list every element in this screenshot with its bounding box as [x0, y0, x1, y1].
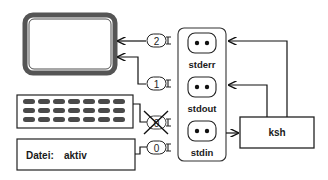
plug-2: 2 — [147, 34, 171, 47]
plug-prong-icon — [166, 37, 171, 44]
redirection-diagram: Datei: aktiv 2 1 0 0 — [0, 0, 328, 180]
file-value: aktiv — [64, 150, 87, 161]
wire-keyboard — [133, 104, 147, 122]
plug-prong-icon — [166, 119, 171, 126]
process-label: ksh — [268, 127, 285, 138]
svg-text:2: 2 — [154, 36, 160, 47]
svg-text:1: 1 — [154, 79, 160, 90]
socket-label-stdin: stdin — [191, 147, 214, 158]
keyboard-icon — [17, 95, 133, 128]
plug-keyboard-crossed: 0 — [144, 111, 171, 134]
socket-label-stderr: stderr — [189, 59, 216, 70]
svg-text:0: 0 — [154, 143, 160, 154]
plug-prong-icon — [166, 80, 171, 87]
file-box: Datei: aktiv — [17, 139, 135, 170]
plug-0: 0 — [147, 141, 171, 154]
ksh-process: ksh — [240, 117, 314, 148]
socket-label-stdout: stdout — [187, 103, 217, 114]
plug-1: 1 — [147, 77, 171, 90]
wire-stdout-monitor — [118, 57, 146, 84]
socket-stdout — [188, 77, 216, 97]
wire-file — [135, 147, 147, 154]
fd-table: stderr stdout stdin — [178, 28, 226, 161]
monitor-icon — [25, 15, 115, 73]
file-label: Datei: — [26, 150, 54, 161]
socket-stdin — [188, 121, 216, 141]
plug-prong-icon — [166, 144, 171, 151]
wire-ksh-stdout — [229, 85, 267, 117]
socket-stderr — [188, 33, 216, 53]
wire-ksh-stderr — [229, 41, 287, 117]
